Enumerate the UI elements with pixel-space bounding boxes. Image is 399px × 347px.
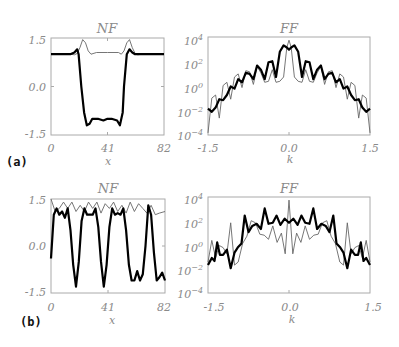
series-thick [51, 205, 165, 286]
y-tick-labels: 104 102 100 10−2 10−4 [177, 192, 203, 301]
chart-b-ff: FF 104 102 100 10−2 10−4 -1.5 0.0 1.5 k [177, 181, 382, 326]
y-tick: 1.5 [29, 34, 47, 47]
svg-text:10−4: 10−4 [177, 286, 203, 301]
series-thin [208, 200, 370, 265]
chart-title: FF [279, 181, 299, 196]
chart-a-nf: NF 1.5 0.0 -1.5 0 41 82 x [25, 21, 171, 168]
x-tick: 41 [100, 142, 115, 155]
svg-text:100: 100 [184, 240, 203, 255]
y-tick: -1.5 [25, 128, 46, 141]
chart-b-nf: NF 1.5 0.0 -1.5 0 41 82 x [25, 181, 171, 327]
y-tick: 1.5 [29, 194, 47, 207]
y-tick: 0.0 [29, 240, 47, 253]
chart-title: NF [97, 181, 119, 196]
svg-text:10−2: 10−2 [177, 263, 203, 278]
svg-text:104: 104 [184, 192, 203, 207]
figure: NF 1.5 0.0 -1.5 0 41 82 x FF 104 102 100… [0, 0, 399, 347]
x-tick: 1.5 [361, 142, 379, 155]
svg-text:100: 100 [184, 81, 203, 96]
x-tick: 0 [48, 301, 55, 314]
x-tick: 0 [48, 142, 55, 155]
y-tick: -1.5 [25, 286, 46, 299]
svg-text:10−4: 10−4 [177, 128, 203, 143]
panel-label-b: (b) [20, 315, 42, 329]
svg-text:102: 102 [184, 57, 203, 72]
x-tick: -1.5 [203, 301, 224, 314]
x-axis-label: k [287, 153, 294, 166]
x-tick: 82 [157, 301, 171, 314]
svg-text:104: 104 [184, 33, 203, 48]
plot-frame [208, 37, 370, 135]
series-thick [51, 49, 164, 125]
x-tick: 82 [157, 142, 171, 155]
x-tick: 41 [100, 301, 115, 314]
x-tick: 1.5 [364, 301, 382, 314]
x-tick: -1.5 [197, 142, 218, 155]
svg-text:102: 102 [184, 216, 203, 231]
y-tick: 0.0 [29, 81, 47, 94]
chart-a-ff: FF 104 102 100 10−2 10−4 -1.5 0.0 1.5 k [177, 21, 379, 166]
x-axis-label: k [289, 313, 296, 326]
panel-label-a: (a) [6, 155, 28, 169]
chart-title: FF [279, 21, 299, 36]
chart-title: NF [96, 21, 118, 36]
svg-text:10−2: 10−2 [177, 105, 203, 120]
y-tick-labels: 104 102 100 10−2 10−4 [177, 33, 203, 143]
series-thin [51, 40, 164, 55]
x-axis-label: x [105, 155, 112, 168]
x-axis-label: x [109, 314, 116, 327]
series-thick [208, 45, 370, 111]
